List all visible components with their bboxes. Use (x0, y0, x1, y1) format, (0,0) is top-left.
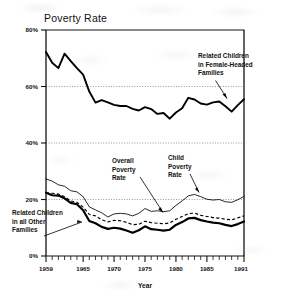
annot-other-leader (44, 222, 82, 236)
series-related-children-all-other (46, 193, 244, 233)
x-axis-title: Year (138, 282, 152, 289)
x-tick-label-1965: 1965 (76, 265, 90, 272)
annot-other-line3: Families (12, 226, 38, 233)
x-tick-label-1985: 1985 (200, 265, 214, 272)
annot-other-line1: Related Children (12, 209, 63, 216)
x-tick-labels: 1959 1965 1970 1975 1980 1985 1991 (39, 265, 248, 272)
poverty-rate-chart: Poverty Rate 80% 60% 40% 20% (0, 0, 283, 299)
annot-overall-leader (140, 177, 163, 213)
annot-child-arrowhead (195, 187, 199, 192)
data-series-group (46, 52, 244, 233)
x-tick-marks (46, 256, 244, 262)
annot-child-line1: Child (168, 154, 184, 161)
grid-lines (46, 87, 244, 200)
annot-overall-line1: Overall (112, 157, 134, 164)
y-tick-label-40: 40% (26, 139, 39, 146)
y-tick-label-20: 20% (26, 196, 39, 203)
annot-overall-line2: Poverty (112, 166, 136, 174)
page-title: Poverty Rate (44, 12, 107, 24)
x-tick-label-1959: 1959 (39, 265, 53, 272)
x-tick-label-1975: 1975 (138, 265, 152, 272)
annot-other-line2: in all Other (12, 218, 46, 225)
annot-female-headed-line2: in Female-Headed (198, 61, 253, 68)
annotation-overall-poverty-rate: Overall Poverty Rate (112, 157, 163, 213)
poverty-rate-figure: Poverty Rate 80% 60% 40% 20% (0, 0, 283, 299)
y-tick-label-0: 0% (29, 252, 38, 259)
annot-female-headed-line3: Families (198, 69, 224, 76)
annotation-related-children-all-other: Related Children in all Other Families (12, 209, 82, 236)
annot-female-headed-arrowhead (223, 93, 227, 99)
x-tick-label-1980: 1980 (169, 265, 183, 272)
annot-overall-arrowhead (158, 207, 163, 212)
annot-child-line2: Poverty (168, 163, 192, 171)
x-tick-label-1991: 1991 (234, 265, 248, 272)
annot-overall-line3: Rate (112, 174, 126, 181)
y-tick-label-60: 60% (26, 83, 39, 90)
annot-female-headed-line1: Related Children (198, 52, 249, 59)
annot-child-line3: Rate (168, 171, 182, 178)
annotation-child-poverty-rate: Child Poverty Rate (168, 154, 199, 193)
x-tick-label-1970: 1970 (107, 265, 121, 272)
y-tick-label-80: 80% (26, 26, 39, 33)
